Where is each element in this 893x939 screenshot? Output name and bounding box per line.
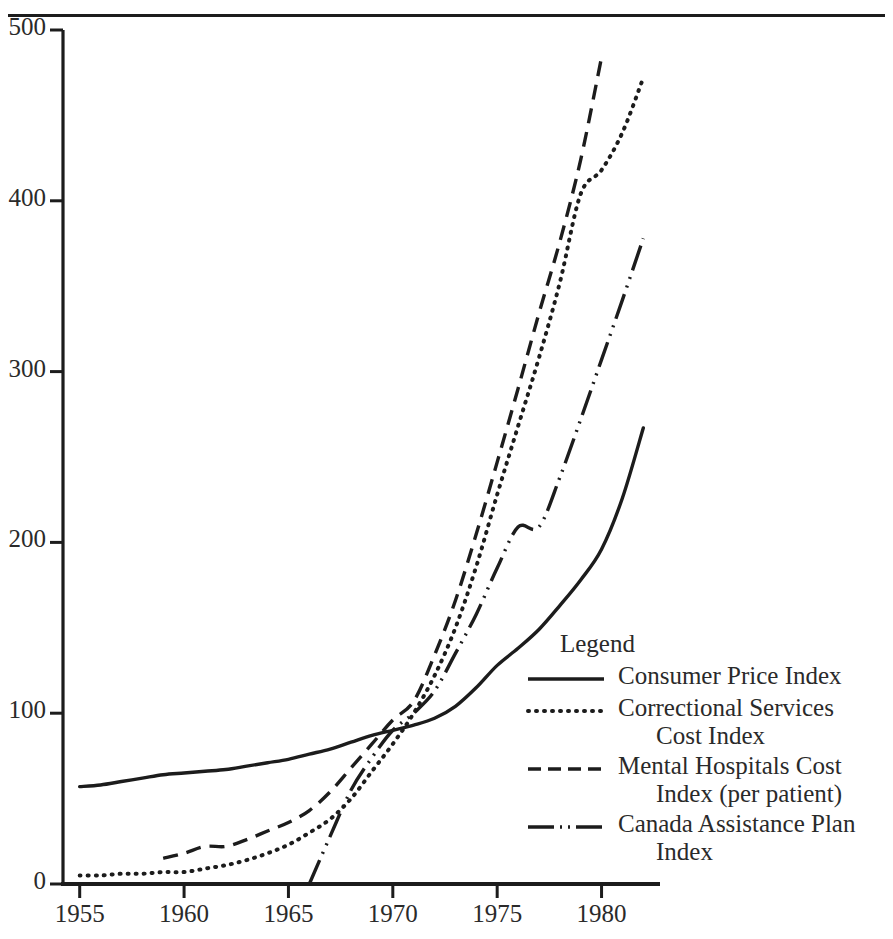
y-tick-label: 300 xyxy=(0,355,46,383)
legend-label-line1: Correctional Services xyxy=(618,694,834,721)
y-tick-label: 200 xyxy=(0,525,46,553)
legend-label-mental-hospitals: Mental Hospitals Cost Index (per patient… xyxy=(618,752,842,808)
legend-item-consumer-price-index: Consumer Price Index xyxy=(524,662,892,692)
legend-item-correctional-services: Correctional Services Cost Index xyxy=(524,694,892,750)
legend-swatch-dashed-icon xyxy=(524,752,608,782)
x-tick-label: 1980 xyxy=(557,900,647,928)
legend-swatch-dotted-icon xyxy=(524,694,608,724)
x-tick-label: 1955 xyxy=(35,900,125,928)
legend-label-consumer-price-index: Consumer Price Index xyxy=(618,662,842,690)
legend-item-mental-hospitals: Mental Hospitals Cost Index (per patient… xyxy=(524,752,892,808)
chart-legend: Legend Consumer Price Index Correctional… xyxy=(524,630,892,868)
y-tick-label: 100 xyxy=(0,696,46,724)
x-tick-label: 1970 xyxy=(348,900,438,928)
legend-label-correctional-services: Correctional Services Cost Index xyxy=(618,694,834,750)
x-axis-ticks xyxy=(80,884,602,898)
y-tick-label: 500 xyxy=(0,13,46,41)
figure-container: 0100200300400500 19551960196519701975198… xyxy=(0,0,893,939)
y-tick-label: 400 xyxy=(0,184,46,212)
x-tick-label: 1960 xyxy=(139,900,229,928)
legend-swatch-solid-icon xyxy=(524,662,608,692)
legend-label-line1: Mental Hospitals Cost xyxy=(618,752,842,779)
legend-label-line2: Cost Index xyxy=(618,722,834,750)
legend-label-line2: Index (per patient) xyxy=(618,780,842,808)
x-tick-label: 1975 xyxy=(452,900,542,928)
y-tick-label: 0 xyxy=(0,867,46,895)
y-axis-ticks xyxy=(50,30,63,884)
legend-label-line2: Index xyxy=(618,838,855,866)
legend-item-canada-assistance-plan: Canada Assistance Plan Index xyxy=(524,810,892,866)
legend-label-line1: Canada Assistance Plan xyxy=(618,810,855,837)
legend-title: Legend xyxy=(560,630,892,658)
x-tick-label: 1965 xyxy=(243,900,333,928)
legend-label-canada-assistance-plan: Canada Assistance Plan Index xyxy=(618,810,855,866)
legend-swatch-dash-dot-dot-icon xyxy=(524,810,608,840)
legend-label-line1: Consumer Price Index xyxy=(618,662,842,689)
